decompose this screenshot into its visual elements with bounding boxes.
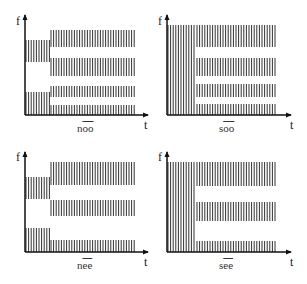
panel-label: noo — [77, 122, 94, 134]
x-axis-label: t — [290, 255, 293, 270]
spectrogram-noo — [0, 0, 153, 142]
label-vowel: ee — [83, 259, 93, 271]
y-axis-label: f — [16, 14, 20, 29]
x-axis-label: t — [290, 118, 293, 133]
panel-noo: f t noo — [0, 0, 153, 142]
panel-label: see — [219, 259, 233, 271]
y-axis-label: f — [158, 150, 162, 165]
y-axis-label: f — [158, 14, 162, 29]
panel-label: nee — [77, 259, 92, 271]
label-vowel: oo — [83, 122, 94, 134]
spectrogram-soo — [153, 0, 307, 142]
panel-nee: f t nee — [0, 142, 153, 284]
panel-label: soo — [219, 122, 234, 134]
panel-see: f t see — [153, 142, 306, 284]
y-axis-label: f — [16, 150, 20, 165]
x-axis-label: t — [144, 255, 147, 270]
x-axis-label: t — [144, 118, 147, 133]
label-vowel: ee — [223, 259, 233, 271]
panel-soo: f t soo — [153, 0, 306, 142]
label-vowel: oo — [223, 122, 234, 134]
